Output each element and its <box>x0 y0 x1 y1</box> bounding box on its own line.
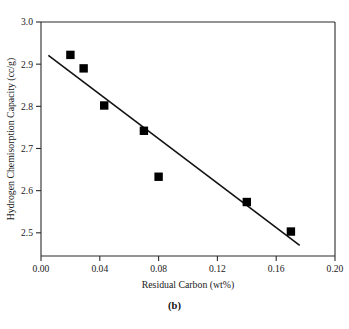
data-point-1 <box>79 64 87 72</box>
y-tick-label-1: 2.6 <box>21 185 33 196</box>
y-tick-label-4: 2.9 <box>21 59 33 70</box>
scatter-plot: 0.000.040.080.120.160.202.52.62.72.82.93… <box>0 0 349 329</box>
x-tick-label-0: 0.00 <box>33 263 50 274</box>
x-tick-label-3: 0.12 <box>209 263 226 274</box>
data-point-5 <box>243 198 251 206</box>
figure-panel: 0.000.040.080.120.160.202.52.62.72.82.93… <box>0 0 349 329</box>
data-point-0 <box>66 51 74 59</box>
figure-caption: (b) <box>0 300 349 311</box>
x-tick-label-4: 0.16 <box>268 263 285 274</box>
x-tick-label-1: 0.04 <box>91 263 108 274</box>
y-tick-label-3: 2.8 <box>21 101 33 112</box>
x-tick-label-2: 0.08 <box>150 263 167 274</box>
data-point-4 <box>154 173 162 181</box>
data-point-3 <box>140 127 148 135</box>
y-axis-title: Hydrogen Chemisorption Capacity (cc/g) <box>5 58 17 220</box>
x-tick-label-5: 0.20 <box>327 263 344 274</box>
data-point-2 <box>100 101 108 109</box>
y-tick-label-2: 2.7 <box>21 143 33 154</box>
data-point-6 <box>287 227 295 235</box>
y-tick-label-5: 3.0 <box>21 16 33 27</box>
x-axis-title: Residual Carbon (wt%) <box>142 279 235 291</box>
y-tick-label-0: 2.5 <box>21 227 33 238</box>
trend-line <box>48 55 299 245</box>
